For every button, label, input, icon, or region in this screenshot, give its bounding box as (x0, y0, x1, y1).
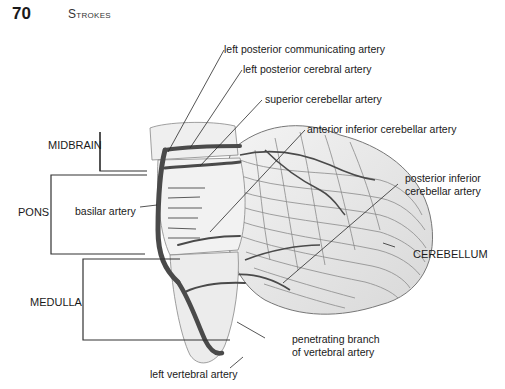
label-anterior-inferior-cerebellar-artery: anterior inferior cerebellar artery (307, 123, 456, 136)
label-penetrating-branch-line2: of vertebral artery (292, 346, 374, 359)
cerebellum-shape (225, 126, 433, 315)
label-left-posterior-communicating-artery: left posterior communicating artery (224, 43, 385, 56)
label-left-vertebral-artery: left vertebral artery (150, 368, 238, 381)
region-medulla: MEDULLA (30, 296, 82, 308)
label-posterior-inferior-cerebellar-artery-line1: posterior inferior (405, 172, 481, 185)
region-cerebellum: CEREBELLUM (413, 248, 488, 260)
label-posterior-inferior-cerebellar-artery-line2: cerebellar artery (405, 185, 481, 198)
region-pons: PONS (18, 206, 49, 218)
label-left-posterior-cerebral-artery: left posterior cerebral artery (243, 63, 371, 76)
label-superior-cerebellar-artery: superior cerebellar artery (265, 93, 382, 106)
label-penetrating-branch-line1: penetrating branch (292, 333, 380, 346)
region-midbrain: MIDBRAIN (48, 139, 102, 151)
label-basilar-artery: basilar artery (75, 205, 136, 218)
